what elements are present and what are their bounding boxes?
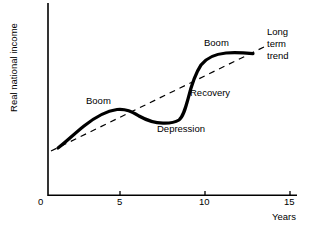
x-tick-label-15: 15 — [284, 196, 295, 207]
annotation-recovery: Recovery — [190, 87, 230, 98]
annotation-depression: Depression — [157, 123, 205, 134]
x-axis-label: Years — [272, 211, 296, 222]
long-term-trend-line-3: trend — [267, 50, 289, 62]
annotation-boom-first: Boom — [86, 95, 111, 106]
business-cycle-chart: Real national income Boom Boom Recovery … — [0, 0, 310, 229]
long-term-trend-line — [51, 47, 264, 151]
x-tick-label-5: 5 — [117, 196, 122, 207]
long-term-trend-line-2: term — [267, 38, 289, 50]
chart-canvas — [0, 0, 310, 229]
annotation-boom-second: Boom — [204, 37, 229, 48]
annotation-long-term-trend: Long term trend — [267, 26, 289, 62]
x-tick-label-0: 0 — [38, 196, 43, 207]
y-axis-label: Real national income — [8, 3, 19, 133]
x-tick-label-10: 10 — [199, 196, 210, 207]
long-term-trend-line-1: Long — [267, 26, 289, 38]
